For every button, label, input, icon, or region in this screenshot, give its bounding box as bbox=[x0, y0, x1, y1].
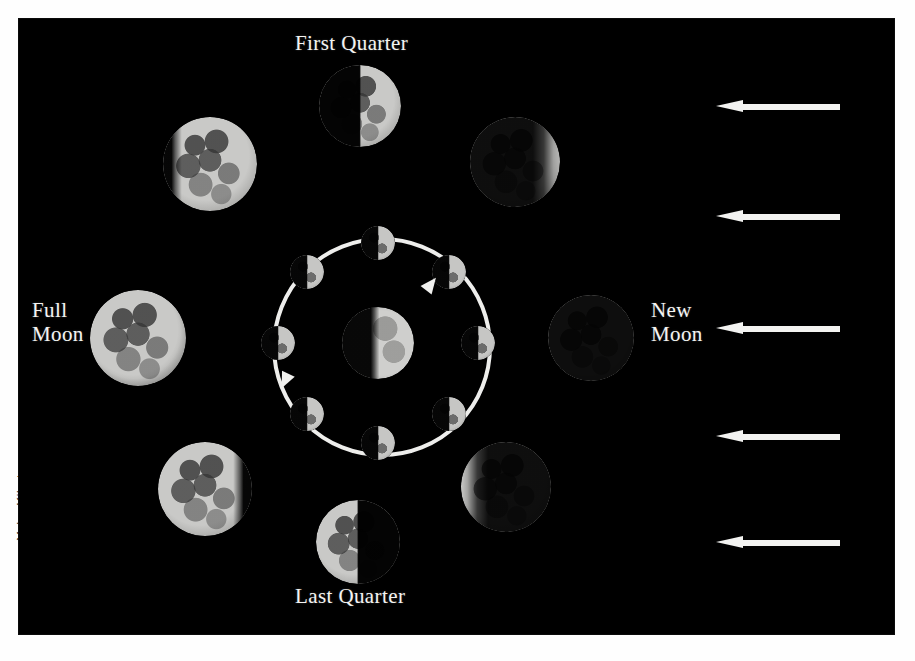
moon-terminator bbox=[158, 442, 252, 536]
sunlight-arrow-1 bbox=[716, 100, 840, 113]
arrow-head-icon bbox=[716, 210, 743, 222]
arrow-shaft bbox=[742, 214, 840, 220]
orbit-moon-top-left bbox=[290, 255, 324, 289]
moon-terminator bbox=[316, 500, 400, 584]
moon-terminator bbox=[432, 397, 466, 431]
arrow-shaft bbox=[742, 434, 840, 440]
earth-moon-orbit-diagram bbox=[258, 223, 498, 463]
arrow-head-icon bbox=[716, 100, 743, 112]
moon-first-quarter bbox=[319, 65, 401, 147]
arrow-shaft bbox=[742, 326, 840, 332]
orbit-moon-bottom-right bbox=[432, 397, 466, 431]
orbit-moon-left bbox=[261, 326, 295, 360]
moon-last-quarter bbox=[316, 500, 400, 584]
moon-phases-figure: First Quarter Full Moon New Moon Last Qu… bbox=[18, 18, 895, 635]
label-full-moon: Full Moon bbox=[32, 299, 84, 346]
moon-waning-gibbous bbox=[158, 442, 252, 536]
arrow-shaft bbox=[742, 104, 840, 110]
moon-waxing-crescent bbox=[470, 117, 560, 207]
moon-terminator bbox=[290, 255, 324, 289]
moon-full bbox=[90, 290, 186, 386]
moon-terminator bbox=[461, 326, 495, 360]
moon-terminator bbox=[361, 226, 395, 260]
moon-terminator bbox=[261, 326, 295, 360]
moon-waxing-gibbous bbox=[163, 117, 257, 211]
moon-terminator bbox=[470, 117, 560, 207]
moon-terminator bbox=[361, 426, 395, 460]
arrow-head-icon bbox=[716, 536, 743, 548]
arrow-head-icon bbox=[716, 430, 743, 442]
sunlight-arrow-2 bbox=[716, 210, 840, 223]
moon-terminator bbox=[90, 290, 186, 386]
sunlight-arrow-5 bbox=[716, 536, 840, 549]
moon-terminator bbox=[319, 65, 401, 147]
label-last-quarter: Last Quarter bbox=[295, 585, 405, 609]
arrow-head-icon bbox=[716, 322, 743, 334]
orbit-moon-bottom bbox=[361, 426, 395, 460]
orbit-moon-top bbox=[361, 226, 395, 260]
label-new-moon: New Moon bbox=[651, 299, 703, 346]
earth-globe bbox=[342, 307, 414, 379]
sunlight-arrow-3 bbox=[716, 322, 840, 335]
orbit-moon-right bbox=[461, 326, 495, 360]
moon-terminator bbox=[163, 117, 257, 211]
arrow-shaft bbox=[742, 540, 840, 546]
moon-terminator bbox=[548, 295, 634, 381]
sunlight-arrow-4 bbox=[716, 430, 840, 443]
moon-new bbox=[548, 295, 634, 381]
orbit-moon-bottom-left bbox=[290, 397, 324, 431]
label-first-quarter: First Quarter bbox=[295, 32, 408, 56]
moon-terminator bbox=[290, 397, 324, 431]
earth-terminator bbox=[342, 307, 414, 379]
